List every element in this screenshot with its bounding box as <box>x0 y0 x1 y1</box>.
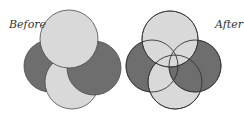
venn-comparison-diagram: Before After <box>0 0 244 113</box>
top-light-circle <box>40 10 98 68</box>
before-label: Before <box>8 18 47 31</box>
after-diagram <box>126 11 221 109</box>
after-label: After <box>214 18 244 31</box>
